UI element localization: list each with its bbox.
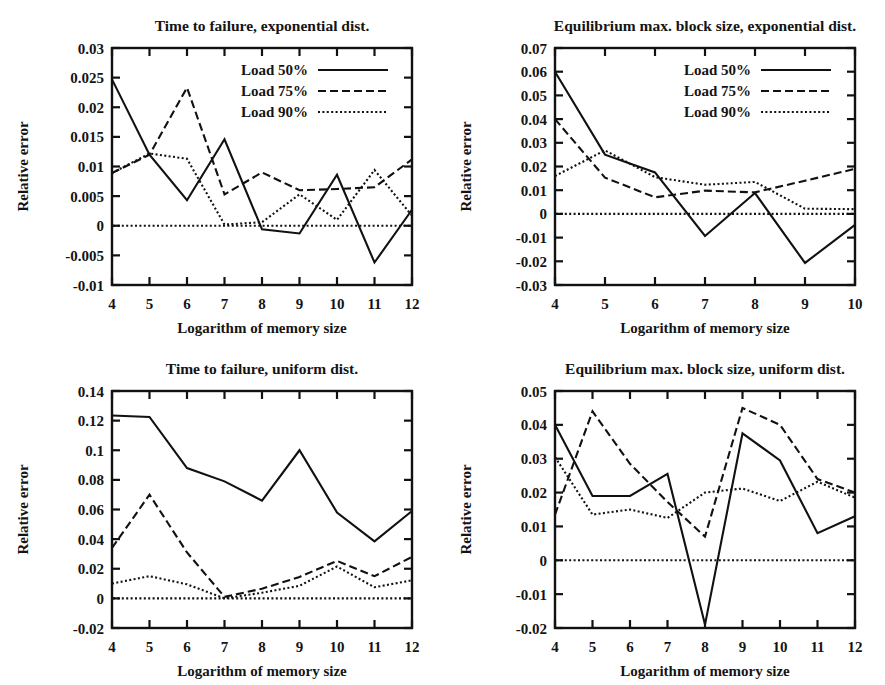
x-tick-label: 4	[551, 639, 559, 655]
x-tick-label: 10	[848, 296, 863, 312]
y-tick-label: -0.02	[516, 621, 547, 637]
y-tick-label: 0.04	[78, 532, 105, 548]
x-tick-label: 5	[601, 296, 609, 312]
x-tick-label: 11	[367, 296, 381, 312]
series-line-dashed	[112, 495, 412, 597]
series-line-dotted	[555, 150, 855, 209]
y-tick-label: 0	[540, 553, 548, 569]
x-tick-label: 6	[183, 296, 191, 312]
y-tick-label: 0.1	[85, 443, 104, 459]
y-tick-label: 0.03	[521, 451, 547, 467]
chart-title: Equilibrium max. block size, exponential…	[554, 17, 856, 34]
x-tick-label: 7	[664, 639, 672, 655]
x-tick-label: 12	[405, 296, 420, 312]
chart-svg-1: Equilibrium max. block size, exponential…	[443, 0, 885, 342]
y-tick-label: 0.05	[521, 384, 547, 400]
y-tick-label: 0.12	[78, 413, 104, 429]
y-tick-label: 0.01	[521, 183, 547, 199]
x-axis-label: Logarithm of memory size	[620, 320, 790, 336]
panel-time-to-failure-exponential: Time to failure, exponential dist.-0.01-…	[0, 0, 442, 342]
y-tick-label: 0.05	[521, 88, 547, 104]
y-axis-label: Relative error	[458, 121, 474, 211]
x-tick-label: 9	[296, 639, 304, 655]
y-tick-label: 0.04	[521, 417, 548, 433]
chart-svg-0: Time to failure, exponential dist.-0.01-…	[0, 0, 442, 342]
y-tick-label: -0.005	[65, 248, 104, 264]
y-tick-label: -0.02	[73, 621, 104, 637]
x-tick-label: 8	[258, 639, 266, 655]
panel-equilibrium-max-block-size-uniform: Equilibrium max. block size, uniform dis…	[443, 343, 885, 685]
x-tick-label: 12	[848, 639, 863, 655]
chart-svg-2: Time to failure, uniform dist.-0.0200.02…	[0, 343, 442, 685]
x-tick-label: 4	[551, 296, 559, 312]
x-tick-label: 8	[258, 296, 266, 312]
x-tick-label: 11	[367, 639, 381, 655]
x-tick-label: 5	[146, 296, 154, 312]
chart-title: Time to failure, exponential dist.	[155, 17, 370, 34]
x-tick-label: 12	[405, 639, 420, 655]
x-axis-label: Logarithm of memory size	[177, 663, 347, 679]
y-tick-label: 0.02	[521, 485, 547, 501]
y-tick-label: 0.06	[78, 502, 105, 518]
y-axis-label: Relative error	[15, 464, 31, 554]
y-tick-label: 0.01	[521, 519, 547, 535]
x-tick-label: 7	[701, 296, 709, 312]
y-axis-label: Relative error	[15, 121, 31, 211]
legend-label-0: Load 50%	[684, 62, 751, 78]
legend-label-1: Load 75%	[684, 83, 751, 99]
y-tick-label: 0	[97, 591, 105, 607]
series-line-dotted	[112, 567, 412, 599]
y-tick-label: -0.01	[73, 278, 104, 294]
x-tick-label: 5	[146, 639, 154, 655]
x-tick-label: 6	[626, 639, 634, 655]
x-tick-label: 5	[589, 639, 597, 655]
legend-label-0: Load 50%	[241, 62, 308, 78]
y-tick-label: -0.02	[516, 254, 547, 270]
legend-label-1: Load 75%	[241, 83, 308, 99]
x-tick-label: 11	[810, 639, 824, 655]
plot-frame	[555, 391, 855, 628]
x-tick-label: 4	[108, 296, 116, 312]
x-tick-label: 8	[751, 296, 759, 312]
y-tick-label: -0.03	[516, 278, 547, 294]
y-tick-label: 0.03	[78, 41, 104, 57]
y-tick-label: 0	[540, 206, 548, 222]
x-tick-label: 10	[330, 296, 345, 312]
series-line-solid	[112, 415, 412, 541]
y-tick-label: 0.015	[70, 129, 104, 145]
panel-equilibrium-max-block-size-exponential: Equilibrium max. block size, exponential…	[443, 0, 885, 342]
y-tick-label: 0	[97, 218, 105, 234]
x-tick-label: 9	[739, 639, 747, 655]
x-tick-label: 10	[773, 639, 788, 655]
chart-title: Equilibrium max. block size, uniform dis…	[565, 360, 845, 377]
series-line-dotted	[555, 457, 855, 518]
legend-label-2: Load 90%	[241, 104, 308, 120]
y-tick-label: 0.14	[78, 384, 105, 400]
x-tick-label: 9	[296, 296, 304, 312]
y-tick-label: 0.005	[70, 189, 104, 205]
x-tick-label: 7	[221, 639, 229, 655]
figure-multiplot: Time to failure, exponential dist.-0.01-…	[0, 0, 885, 685]
y-tick-label: 0.02	[521, 159, 547, 175]
x-tick-label: 10	[330, 639, 345, 655]
series-line-solid	[555, 425, 855, 625]
x-tick-label: 7	[221, 296, 229, 312]
series-line-solid	[555, 72, 855, 263]
x-tick-label: 8	[701, 639, 709, 655]
y-tick-label: 0.06	[521, 64, 548, 80]
y-tick-label: 0.07	[521, 41, 548, 57]
y-tick-label: -0.01	[516, 587, 547, 603]
y-tick-label: 0.025	[70, 70, 104, 86]
y-tick-label: -0.01	[516, 230, 547, 246]
x-axis-label: Logarithm of memory size	[620, 663, 790, 679]
y-axis-label: Relative error	[458, 464, 474, 554]
y-tick-label: 0.04	[521, 112, 548, 128]
chart-svg-3: Equilibrium max. block size, uniform dis…	[443, 343, 885, 685]
x-tick-label: 6	[651, 296, 659, 312]
y-tick-label: 0.08	[78, 472, 104, 488]
chart-title: Time to failure, uniform dist.	[166, 360, 358, 377]
y-tick-label: 0.03	[521, 135, 547, 151]
y-tick-label: 0.01	[78, 159, 104, 175]
x-tick-label: 6	[183, 639, 191, 655]
x-tick-label: 4	[108, 639, 116, 655]
